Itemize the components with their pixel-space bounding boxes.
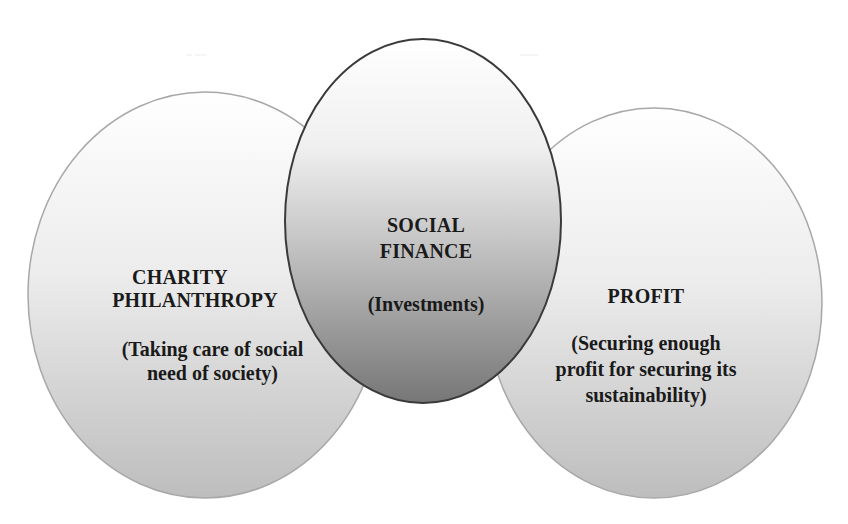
profit-title: PROFIT [566, 285, 726, 308]
charity-title-line1: CHARITY [80, 266, 310, 289]
faint-artifact-left: ~ ~~ [186, 48, 207, 60]
social-finance-title: SOCIAL FINANCE [336, 212, 516, 264]
profit-desc-line3: sustainability) [520, 382, 772, 408]
social-finance-line2: FINANCE [336, 238, 516, 264]
faint-artifact-right: ~~~ [520, 48, 538, 60]
charity-desc-line1: (Taking care of social [90, 337, 335, 361]
social-finance-desc-line1: (Investments) [336, 292, 516, 316]
profit-desc-line1: (Securing enough [520, 330, 772, 356]
social-finance-line1: SOCIAL [336, 212, 516, 238]
charity-desc-line2: need of society) [90, 361, 335, 385]
charity-title-line2: PHILANTHROPY [80, 289, 310, 312]
charity-title: CHARITY PHILANTHROPY [80, 266, 310, 312]
profit-description: (Securing enough profit for securing its… [520, 330, 772, 408]
profit-desc-line2: profit for securing its [520, 356, 772, 382]
charity-description: (Taking care of social need of society) [90, 337, 335, 385]
social-finance-description: (Investments) [336, 292, 516, 316]
profit-title-line1: PROFIT [566, 285, 726, 308]
